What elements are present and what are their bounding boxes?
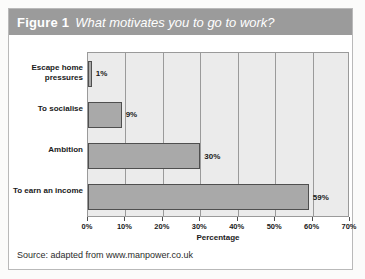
plot-area: 1%9%30%59%	[87, 52, 349, 217]
x-tick-mark	[124, 217, 125, 221]
x-tick-label: 10%	[117, 222, 132, 231]
y-axis-category-label: To earn an income	[11, 186, 83, 196]
bar-row: 59%	[88, 177, 329, 218]
source-note: Source: adapted from www.manpower.co.uk	[17, 250, 193, 260]
y-axis-category-label: Escape home pressures	[11, 63, 83, 83]
x-axis-ticks: 0%10%20%30%40%50%60%70%	[87, 217, 349, 233]
x-tick-mark	[162, 217, 163, 221]
x-tick-label: 30%	[192, 222, 207, 231]
bar[interactable]	[88, 61, 92, 87]
x-tick-mark	[274, 217, 275, 221]
y-axis-category-label: Ambition	[11, 145, 83, 155]
x-tick-mark	[349, 217, 350, 221]
x-tick-label: 0%	[82, 222, 93, 231]
bar[interactable]	[88, 184, 309, 210]
figure-header: Figure 1 What motivates you to go to wor…	[9, 9, 352, 35]
x-axis-title: Percentage	[87, 233, 349, 242]
bar-value-label: 59%	[313, 193, 329, 202]
x-tick-label: 20%	[154, 222, 169, 231]
bar-value-label: 9%	[126, 110, 138, 119]
y-axis-category-label: To socialise	[11, 104, 83, 114]
x-tick-label: 70%	[341, 222, 356, 231]
chart-body: Escape home pressuresTo socialiseAmbitio…	[9, 35, 352, 271]
bar-row: 30%	[88, 136, 220, 177]
x-tick-mark	[199, 217, 200, 221]
bar-row: 9%	[88, 94, 137, 135]
bar-value-label: 1%	[96, 69, 108, 78]
figure-card: Figure 1 What motivates you to go to wor…	[8, 8, 353, 270]
x-tick-label: 40%	[229, 222, 244, 231]
bar-row: 1%	[88, 53, 107, 94]
x-tick-mark	[87, 217, 88, 221]
y-axis-category-labels: Escape home pressuresTo socialiseAmbitio…	[9, 52, 83, 217]
x-tick-label: 50%	[267, 222, 282, 231]
x-tick-label: 60%	[304, 222, 319, 231]
x-tick-mark	[312, 217, 313, 221]
bar[interactable]	[88, 143, 200, 169]
figure-title: What motivates you to go to work?	[75, 15, 274, 30]
figure-number-label: Figure 1	[17, 15, 69, 30]
x-tick-mark	[237, 217, 238, 221]
bar[interactable]	[88, 102, 122, 128]
bar-value-label: 30%	[204, 152, 220, 161]
